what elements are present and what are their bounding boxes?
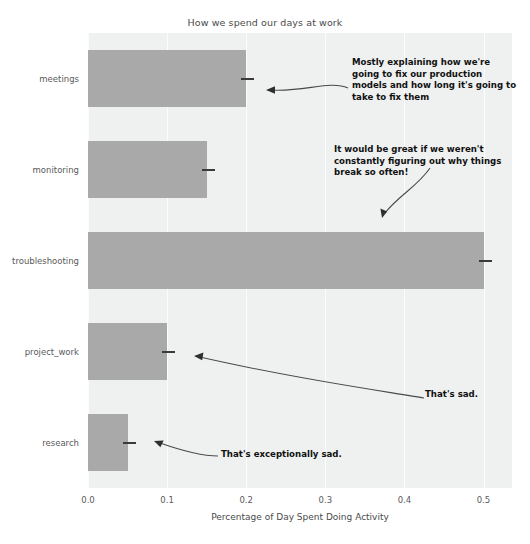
y-axis-label-project_work: project_work [25,347,79,357]
x-axis-label: Percentage of Day Spent Doing Activity [88,512,512,522]
bar-project_work [88,323,167,379]
bar-monitoring [88,141,207,197]
y-axis-label-troubleshooting: troubleshooting [12,256,79,266]
y-axis-label-research: research [42,438,79,448]
annotation-monitoring: It would be great if we weren't constant… [334,144,524,179]
error-marker-troubleshooting [479,260,492,262]
x-tick-0.3: 0.3 [319,495,333,505]
bar-troubleshooting [88,232,484,288]
x-tick-0.5: 0.5 [477,495,491,505]
error-marker-meetings [241,78,254,80]
x-tick-0.1: 0.1 [160,495,174,505]
chart-title: How we spend our days at work [0,17,530,28]
x-tick-0.4: 0.4 [398,495,412,505]
bar-meetings [88,50,246,106]
annotation-meetings: Mostly explaining how we're going to fix… [352,57,524,103]
annotation-project-work: That's sad. [425,389,525,401]
annotation-research: That's exceptionally sad. [221,449,391,461]
x-tick-0.2: 0.2 [239,495,253,505]
error-marker-monitoring [202,169,215,171]
y-axis-label-meetings: meetings [39,74,79,84]
error-marker-project_work [162,351,175,353]
y-axis-label-monitoring: monitoring [33,165,79,175]
x-tick-0.0: 0.0 [81,495,95,505]
chart-figure: How we spend our days at work meetingsmo… [0,0,530,544]
error-marker-research [123,442,136,444]
